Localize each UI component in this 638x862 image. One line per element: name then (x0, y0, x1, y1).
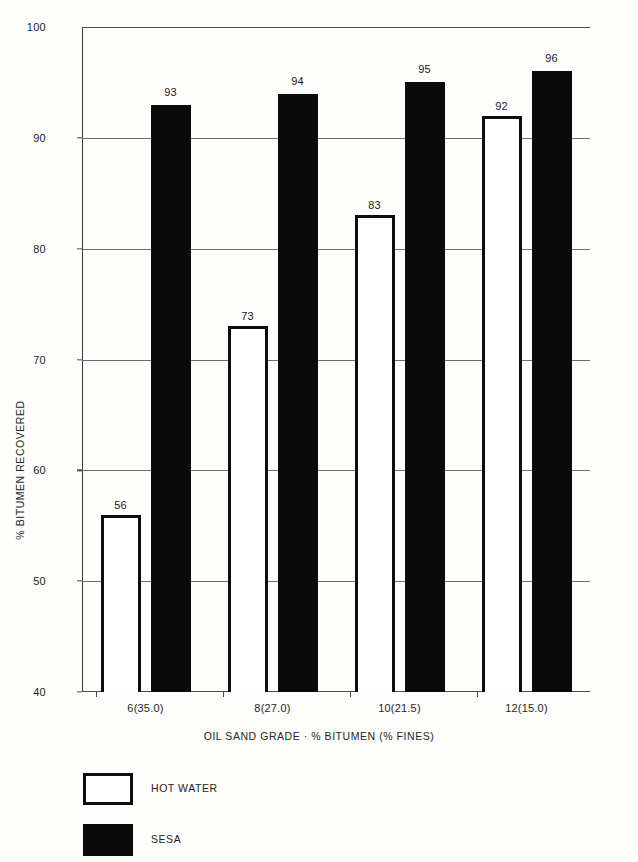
x-axis-title: OIL SAND GRADE · % BITUMEN (% FINES) (0, 730, 638, 742)
bar-hot-water-10(21.5): 83 (355, 215, 395, 692)
legend-label: SESA (151, 833, 181, 845)
chart-figure: % BITUMEN RECOVERED 405060708090100 5693… (0, 0, 638, 862)
bar-value-label: 83 (368, 199, 381, 211)
y-tick-label-100: 100 (10, 21, 46, 33)
x-tick-label-8(27.0): 8(27.0) (254, 702, 290, 714)
legend-swatch-solid (83, 824, 133, 856)
bar-hot-water-8(27.0): 73 (228, 326, 268, 692)
y-tick-label-70: 70 (10, 354, 46, 366)
plot-area: 5693739483959296 (82, 27, 590, 692)
bar-sesa-12(15.0): 96 (532, 71, 572, 692)
x-tick-label-6(35.0): 6(35.0) (127, 702, 163, 714)
bar-sesa-8(27.0): 94 (278, 94, 318, 693)
x-tick-mark-6(35.0) (96, 692, 97, 697)
legend-label: HOT WATER (151, 782, 218, 794)
bar-value-label: 92 (495, 100, 508, 112)
bar-hot-water-12(15.0): 92 (482, 116, 522, 692)
bar-value-label: 95 (418, 63, 431, 75)
y-tick-label-80: 80 (10, 243, 46, 255)
x-tick-mark-10(21.5) (350, 692, 351, 697)
y-tick-label-90: 90 (10, 132, 46, 144)
x-tick-label-12(15.0): 12(15.0) (505, 702, 548, 714)
plot-top-border (82, 27, 590, 28)
bar-value-label: 96 (545, 52, 558, 64)
x-tick-mark-12(15.0) (477, 692, 478, 697)
legend-swatch-outline (83, 773, 133, 805)
y-tick-label-60: 60 (10, 464, 46, 476)
bar-value-label: 73 (241, 310, 254, 322)
bar-sesa-6(35.0): 93 (151, 105, 191, 692)
bar-value-label: 56 (114, 499, 127, 511)
bar-value-label: 93 (164, 86, 177, 98)
x-tick-label-10(21.5): 10(21.5) (378, 702, 421, 714)
y-tick-label-40: 40 (10, 686, 46, 698)
bar-hot-water-6(35.0): 56 (101, 515, 141, 692)
bar-value-label: 94 (291, 75, 304, 87)
bar-sesa-10(21.5): 95 (405, 82, 445, 692)
y-tick-label-50: 50 (10, 575, 46, 587)
x-tick-mark-8(27.0) (223, 692, 224, 697)
